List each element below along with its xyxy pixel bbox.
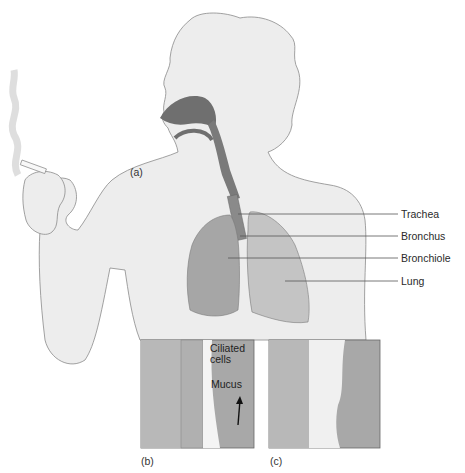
- cigarette: [20, 160, 46, 174]
- callout-lung: Lung: [401, 276, 424, 287]
- panel-c-label: (c): [270, 456, 282, 467]
- cigarette-smoke: [12, 70, 18, 175]
- callout-ciliated-cells: Ciliated cells: [210, 343, 250, 365]
- panel-c-illustration: [269, 340, 380, 448]
- respiratory-diagram: [0, 0, 465, 473]
- callout-bronchus: Bronchus: [401, 231, 445, 242]
- callout-trachea: Trachea: [401, 209, 439, 220]
- panel-a-label: (a): [130, 167, 143, 178]
- callout-mucus: Mucus: [211, 379, 242, 390]
- panel-b-label: (b): [141, 456, 154, 467]
- callout-bronchiole: Bronchiole: [401, 253, 451, 264]
